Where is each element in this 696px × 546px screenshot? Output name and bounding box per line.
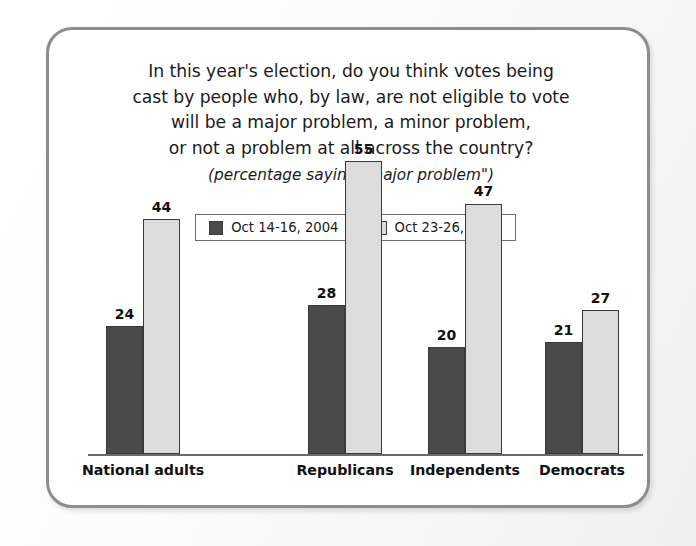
bar-value-label: 55 — [344, 141, 384, 157]
chart-frame: In this year's election, do you think vo… — [46, 27, 650, 508]
bar-national-adults-2004 — [106, 326, 143, 454]
bar-value-label: 44 — [142, 199, 182, 215]
chart-screenshot: In this year's election, do you think vo… — [0, 0, 696, 546]
bar-national-adults-2008 — [143, 219, 180, 454]
bar-value-label: 20 — [427, 327, 467, 343]
bar-independents-2008 — [465, 204, 502, 455]
bar-independents-2004 — [428, 347, 465, 454]
x-axis-line — [88, 454, 643, 456]
category-label-national-adults: National adults — [53, 462, 233, 478]
bar-democrats-2004 — [545, 342, 582, 454]
bar-value-label: 28 — [307, 285, 347, 301]
bar-value-label: 47 — [464, 183, 504, 199]
category-label-democrats: Democrats — [492, 462, 672, 478]
bar-value-label: 24 — [105, 306, 145, 322]
bar-republicans-2004 — [308, 305, 345, 454]
bar-value-label: 21 — [544, 322, 584, 338]
chart-plot-area: 2444285520472127 National adultsRepublic… — [49, 30, 653, 511]
bar-democrats-2008 — [582, 310, 619, 454]
bar-value-label: 27 — [581, 290, 621, 306]
bar-republicans-2008 — [345, 161, 382, 454]
